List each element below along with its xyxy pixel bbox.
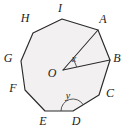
vertex-label-e: E [38, 114, 47, 128]
vertex-label-i: I [57, 1, 63, 15]
vertex-label-h: H [20, 11, 31, 25]
center-label-o: O [48, 66, 57, 80]
vertex-label-f: F [8, 81, 17, 95]
vertex-label-a: A [98, 12, 107, 26]
vertex-label-b: B [113, 51, 121, 65]
nonagon-diagram-svg: A B C D E F G H I O x y [0, 0, 133, 130]
vertex-label-d: D [71, 114, 81, 128]
angle-label-x: x [71, 53, 77, 64]
geometry-figure: A B C D E F G H I O x y [0, 0, 133, 130]
vertex-label-g: G [4, 51, 13, 65]
vertex-label-c: C [106, 86, 115, 100]
angle-label-y: y [65, 90, 71, 101]
